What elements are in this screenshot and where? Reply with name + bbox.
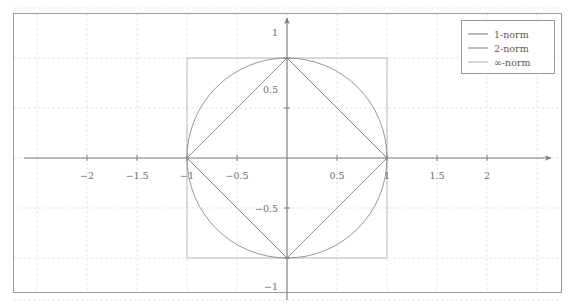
chart-canvas: −2 −1.5 −1 −0.5 0.5 1 1.5 2 1 0.5 −0.5 −…: [0, 0, 576, 306]
x-tick-label: −2: [80, 170, 94, 181]
y-tick-label: −0.5: [255, 203, 278, 214]
legend-label-2-norm: 2-norm: [494, 43, 529, 54]
x-tick-label: −1.5: [125, 170, 148, 181]
x-tick-label: 1: [384, 170, 390, 181]
y-tick-label: 1: [272, 27, 278, 38]
norm-unit-balls-plot: −2 −1.5 −1 −0.5 0.5 1 1.5 2 1 0.5 −0.5 −…: [0, 0, 576, 306]
y-tick-label: −1: [264, 281, 278, 292]
legend-label-1-norm: 1-norm: [494, 29, 529, 40]
x-tick-label: 2: [484, 170, 490, 181]
legend-label-inf-norm: ∞-norm: [494, 57, 531, 68]
legend: 1-norm 2-norm ∞-norm: [462, 21, 555, 74]
x-tick-label: −1: [180, 170, 194, 181]
y-tick-label: 0.5: [263, 84, 278, 95]
x-tick-label: 1.5: [429, 170, 444, 181]
x-tick-label: 0.5: [329, 170, 344, 181]
x-tick-label: −0.5: [225, 170, 248, 181]
